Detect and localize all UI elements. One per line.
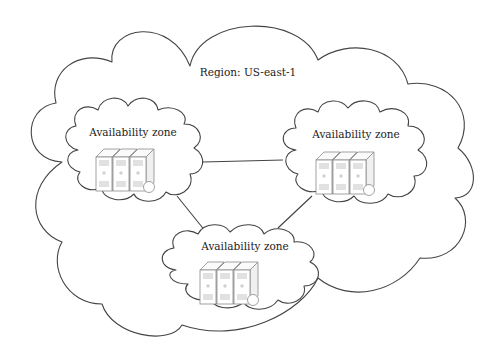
az-left-label: Availability zone (89, 126, 176, 138)
az-right-label: Availability zone (312, 128, 399, 140)
region-diagram (0, 0, 498, 363)
region-label: Region: US-east-1 (200, 66, 296, 78)
az-bottom-label: Availability zone (201, 240, 288, 252)
server-stack-bottom (200, 262, 259, 306)
server-stack-left (96, 149, 155, 193)
server-stack-right (316, 152, 375, 196)
